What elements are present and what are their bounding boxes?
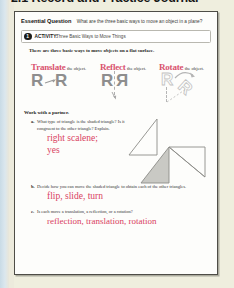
triangle-figure: [127, 113, 209, 187]
translate-arrow-icon: [44, 78, 57, 86]
answer-b: flip, slide, turn: [47, 191, 211, 202]
question-b-letter: b.: [31, 184, 35, 189]
move-type-labels: Translatethe object. Reflectthe object. …: [21, 56, 211, 70]
essential-question-label: Essential Question: [21, 18, 71, 24]
letter-r-mirrored-icon: R: [116, 72, 128, 89]
activity-title: Three Basic Ways to Move Things: [56, 34, 126, 39]
reflect-arrow-icon: [110, 92, 120, 100]
worksheet-page: Essential Question What are the three ba…: [14, 11, 218, 275]
question-c-letter: c.: [31, 209, 34, 214]
triangle-outline-upper: [129, 119, 157, 155]
activity-label: ACTIVITY:: [35, 34, 58, 39]
essential-question-text: What are the three basic ways to move an…: [77, 19, 203, 24]
answer-c: reflection, translation, rotation: [47, 216, 211, 226]
activity-number-badge: 1: [24, 33, 32, 41]
essential-question: Essential Question What are the three ba…: [21, 17, 211, 25]
scan-edge-strip: [0, 0, 9, 288]
page-title: 2.1 Record and Practice Journal: [11, 0, 226, 5]
lead-in-text: There are three basic ways to move objec…: [29, 48, 211, 53]
activity-header-bar: 1 ACTIVITY: Three Basic Ways to Move Thi…: [21, 30, 211, 43]
letter-r-preimage-icon: R: [31, 72, 43, 89]
letter-r-preimage-outline-icon: R: [161, 71, 173, 88]
triangle-hypotenuse: [169, 147, 205, 177]
triangle-figure-svg: [127, 113, 209, 187]
worksheet-content: Essential Question What are the three ba…: [21, 17, 211, 226]
move-diagrams: R R R R R R: [21, 70, 211, 104]
triangle-shaded: [141, 147, 169, 183]
rotation-arrow-icon: [173, 70, 199, 84]
rotation-guide-line-2-icon: [166, 87, 190, 103]
question-a-letter: a.: [31, 119, 34, 124]
question-a-text: What type of triangle is the shaded tria…: [37, 119, 133, 132]
question-c-text: Is each move a translation, a reflection…: [37, 209, 205, 216]
question-c: c. Is each move a translation, a reflect…: [31, 209, 211, 227]
letter-r-preimage-icon: R: [101, 72, 113, 89]
